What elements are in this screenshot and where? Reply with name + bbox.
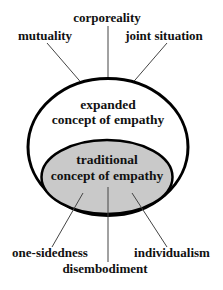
traditional-concept-label-line2: concept of empathy [51,168,164,183]
label-one-sidedness: one-sidedness [12,245,88,260]
label-mutuality: mutuality [18,28,73,43]
label-disembodiment: disembodiment [62,261,148,276]
expanded-concept-label-line1: expanded [80,97,136,112]
label-joint-situation: joint situation [124,28,203,43]
traditional-concept-label-line1: traditional [76,152,138,167]
expanded-concept-label-line2: concept of empathy [52,112,165,127]
label-corporeality: corporeality [73,10,141,25]
label-individualism: individualism [134,245,210,260]
empathy-concept-diagram: corporeality mutuality joint situation e… [0,0,223,290]
